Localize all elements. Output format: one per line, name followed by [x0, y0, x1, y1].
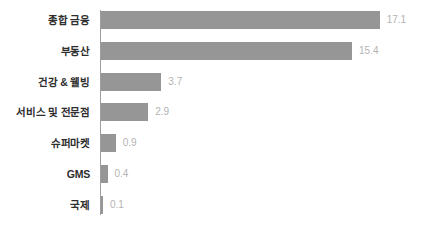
bar	[101, 196, 103, 214]
bar-chart: 종합 금융17.1부동산15.4건강 & 웰빙3.7서비스 및 전문점2.9슈퍼…	[0, 0, 427, 232]
bar-row: 국제0.1	[0, 196, 427, 214]
bar-row: 종합 금융17.1	[0, 11, 427, 29]
bar-row: 부동산15.4	[0, 42, 427, 60]
bar	[101, 11, 380, 29]
bar-row: GMS0.4	[0, 165, 427, 183]
bar	[101, 103, 148, 121]
bar-value-label: 17.1	[387, 11, 406, 29]
category-label: 국제	[0, 196, 90, 214]
bar-value-label: 15.4	[359, 42, 378, 60]
category-label: 부동산	[0, 42, 90, 60]
bar-row: 슈퍼마켓0.9	[0, 134, 427, 152]
category-label: 종합 금융	[0, 11, 90, 29]
plot-area: 종합 금융17.1부동산15.4건강 & 웰빙3.7서비스 및 전문점2.9슈퍼…	[0, 0, 427, 232]
bar-value-label: 3.7	[168, 73, 182, 91]
category-label: 건강 & 웰빙	[0, 73, 90, 91]
bar-row: 건강 & 웰빙3.7	[0, 73, 427, 91]
bar-value-label: 0.9	[123, 134, 137, 152]
bar	[101, 165, 108, 183]
bar-row: 서비스 및 전문점2.9	[0, 103, 427, 121]
bar-value-label: 0.1	[110, 196, 124, 214]
category-label: 서비스 및 전문점	[0, 103, 90, 121]
bar	[101, 134, 116, 152]
bar-value-label: 2.9	[155, 103, 169, 121]
category-label: 슈퍼마켓	[0, 134, 90, 152]
bar	[101, 73, 161, 91]
category-label: GMS	[0, 165, 90, 183]
bar	[101, 42, 352, 60]
bar-value-label: 0.4	[115, 165, 129, 183]
